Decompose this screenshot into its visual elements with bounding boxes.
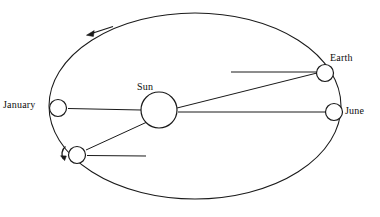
axis-line-lower-left	[87, 156, 146, 157]
earth-body-lower-left	[69, 147, 86, 164]
label-sun: Sun	[137, 82, 153, 92]
label-january: January	[3, 100, 36, 110]
label-earth: Earth	[330, 53, 353, 63]
earth-body-june	[326, 104, 343, 121]
sun-body	[141, 92, 177, 128]
axis-line-january	[68, 109, 141, 111]
orbit-ellipse	[49, 13, 341, 199]
label-june: June	[345, 106, 364, 116]
earth-body-upper-right	[317, 65, 334, 82]
earth-body-january	[50, 100, 67, 117]
orbit-diagram	[0, 0, 380, 217]
axis-line-sun-to-lower-left	[86, 122, 147, 150]
axis-line-sun-to-earth	[177, 73, 317, 108]
diagram-canvas: January Sun Earth June	[0, 0, 380, 217]
